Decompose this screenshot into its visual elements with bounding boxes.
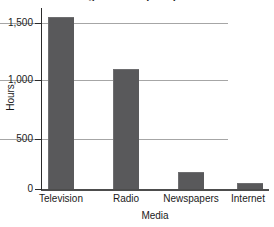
chart-title: Average Hours Spent per Year — [0, 0, 274, 1]
y-tick-mark-1000 — [35, 80, 42, 81]
x-tick-label-newspapers: Newspapers — [155, 193, 227, 205]
x-tick-label-internet: Internet — [222, 193, 274, 205]
y-tick-mark-1500 — [35, 23, 42, 24]
x-axis-line — [41, 189, 269, 191]
y-tick-label-1500: 1,500 — [1, 18, 33, 28]
x-tick-label-television: Television — [29, 193, 93, 205]
bar-radio[interactable] — [113, 69, 139, 189]
bar-newspapers[interactable] — [178, 172, 204, 189]
bar-television[interactable] — [48, 17, 74, 189]
y-tick-mark-500 — [35, 139, 42, 140]
y-tick-label-500: 500 — [1, 134, 33, 144]
bar-internet[interactable] — [237, 183, 263, 189]
x-tick-label-radio: Radio — [97, 193, 155, 205]
y-axis-title: Hours — [5, 73, 16, 123]
y-tick-mark-0 — [35, 189, 42, 190]
x-axis-title: Media — [41, 210, 269, 221]
y-axis-line — [41, 8, 42, 190]
bar-chart-figure: Average Hours Spent per Year 1,500 1,000… — [0, 0, 274, 227]
